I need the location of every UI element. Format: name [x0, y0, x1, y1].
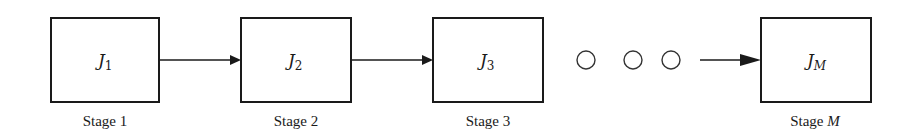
ellipsis-circle-icon — [624, 51, 642, 69]
stage-m-label: Stage M — [790, 113, 841, 129]
stage-1: J1 Stage 1 — [51, 18, 159, 129]
stage-3-label: Stage 3 — [466, 113, 511, 129]
arrow-stage2-to-stage3 — [352, 55, 433, 65]
ellipsis-circle-icon — [662, 51, 680, 69]
stage-3: J3 Stage 3 — [433, 18, 543, 129]
stage-2: J2 Stage 2 — [241, 18, 351, 129]
stage-flow-diagram: J1 Stage 1 J2 Stage 2 J3 Stage 3 — [0, 0, 917, 137]
arrow-ellipsis-to-stageM — [700, 54, 761, 66]
arrowhead-icon — [422, 55, 433, 65]
stage-1-label: Stage 1 — [83, 113, 128, 129]
stage-m: JM Stage M — [761, 18, 871, 129]
arrowhead-icon — [740, 54, 761, 66]
ellipsis-circle-icon — [577, 51, 595, 69]
arrow-stage1-to-stage2 — [160, 55, 241, 65]
stage-2-label: Stage 2 — [274, 113, 319, 129]
arrowhead-icon — [230, 55, 241, 65]
ellipsis — [577, 51, 680, 69]
